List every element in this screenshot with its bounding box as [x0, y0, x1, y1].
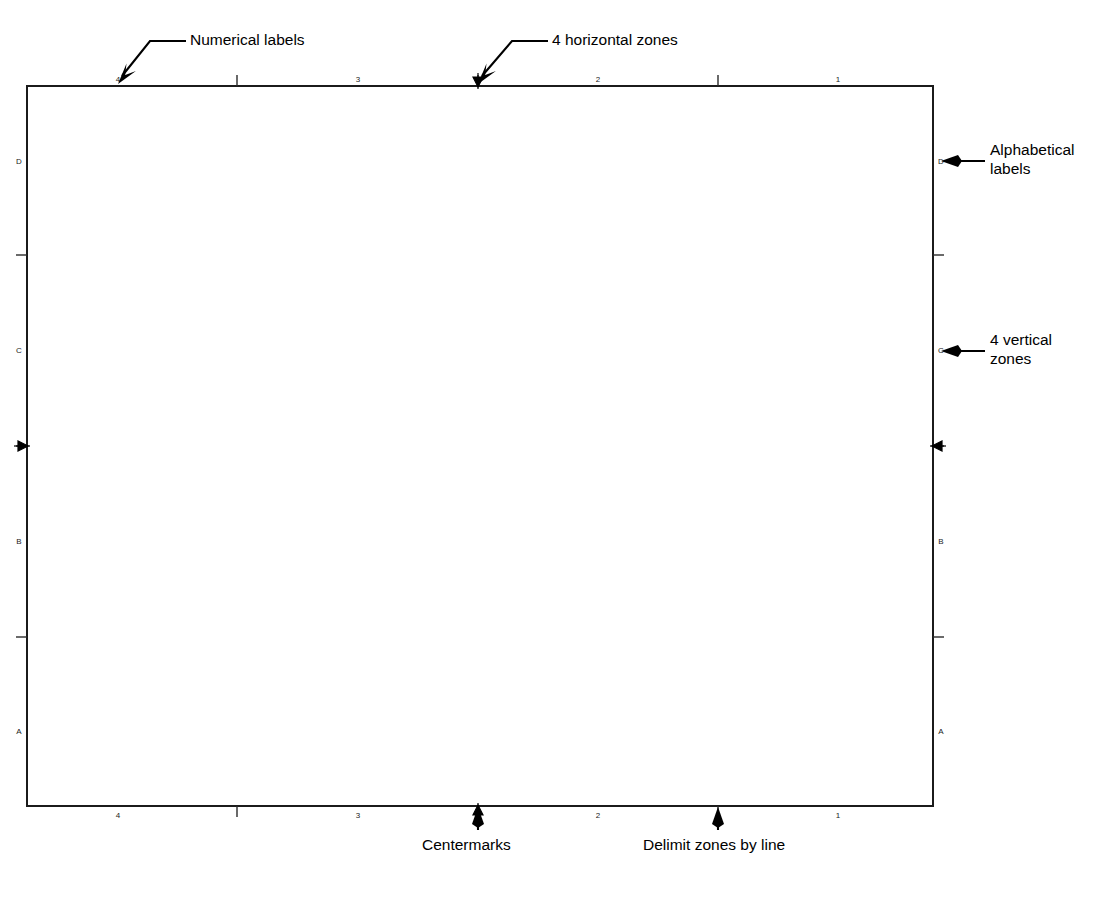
zone-label-top-3: 3	[356, 75, 361, 84]
leader-arrowhead-centermarks	[472, 807, 484, 828]
annotation-delimit-zones: Delimit zones by line	[643, 835, 785, 854]
zone-label-bottom-1: 1	[836, 811, 841, 820]
zone-label-bottom-2: 2	[596, 811, 601, 820]
zone-label-bottom-3: 3	[356, 811, 361, 820]
leader-arrowhead-delimit-zones	[712, 807, 724, 828]
leader-arrowhead-horizontal-zones	[478, 64, 496, 84]
zone-label-right-A: A	[938, 727, 944, 736]
zone-label-left-C: C	[16, 346, 22, 355]
zone-label-left-A: A	[16, 727, 22, 736]
annotation-centermarks: Centermarks	[422, 835, 511, 854]
zone-label-left-B: B	[16, 537, 21, 546]
annotation-horizontal-zones: 4 horizontal zones	[552, 30, 678, 49]
leader-line-horizontal-zones	[482, 41, 548, 76]
leader-arrowhead-vertical-zones	[941, 345, 962, 357]
zone-label-right-B: B	[938, 537, 943, 546]
zone-label-top-2: 2	[596, 75, 601, 84]
leader-arrowhead-numerical-labels	[118, 64, 136, 84]
zone-label-bottom-4: 4	[116, 811, 121, 820]
zone-labels-group: 44332211DDCCBBAA	[16, 75, 944, 820]
leader-arrowhead-alphabetical-labels	[941, 155, 962, 167]
annotation-numerical-labels: Numerical labels	[190, 30, 305, 49]
annotation-vertical-zones: 4 vertical zones	[990, 330, 1052, 368]
leader-line-numerical-labels	[122, 41, 186, 76]
drawing-sheet: 44332211DDCCBBAA Numerical labels 4 hori…	[0, 0, 1120, 912]
centermarks-group	[14, 73, 946, 819]
annotation-alphabetical-labels: Alphabetical labels	[990, 140, 1074, 178]
frame-diagram-canvas: 44332211DDCCBBAA	[0, 0, 1120, 912]
drawing-frame-border	[27, 86, 933, 806]
annotation-leader-lines	[118, 41, 985, 830]
zone-label-left-D: D	[16, 157, 22, 166]
zone-label-top-1: 1	[836, 75, 841, 84]
